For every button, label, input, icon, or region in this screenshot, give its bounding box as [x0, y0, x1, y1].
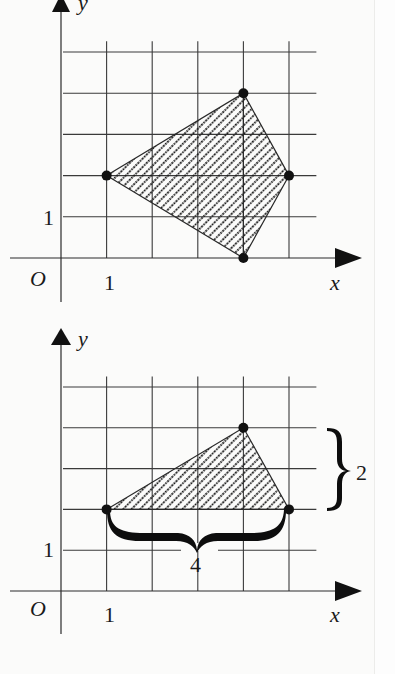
vertex-dot [102, 504, 112, 514]
top-y-axis-label: y [76, 0, 88, 15]
vertex-dot [284, 171, 294, 181]
bottom-origin-label: O [30, 596, 46, 621]
height-brace-icon [327, 428, 351, 511]
bottom-x-axis-arrow-icon [335, 581, 362, 601]
top-y-axis-arrow-icon [52, 0, 70, 12]
top-y-tick-label: 1 [43, 205, 54, 230]
top-x-axis-arrow-icon [335, 248, 362, 268]
height-length-label: 2 [356, 460, 367, 485]
top-figure: y x O 1 1 [10, 0, 362, 302]
top-x-tick-label: 1 [104, 270, 115, 295]
vertex-dot [238, 88, 248, 98]
bottom-y-axis-arrow-icon [51, 328, 71, 345]
base-length-label: 4 [190, 552, 201, 577]
bottom-y-tick-label: 1 [43, 537, 54, 562]
vertex-dot [284, 504, 294, 514]
bottom-y-axis-label: y [76, 326, 88, 351]
bottom-x-axis-label: x [329, 602, 340, 627]
vertex-dot [238, 253, 248, 263]
top-x-axis-label: x [329, 270, 340, 295]
vertex-dot [102, 171, 112, 181]
bottom-figure: y x O 1 1 4 2 [10, 326, 367, 634]
top-origin-label: O [30, 266, 46, 291]
vertex-dot [238, 423, 248, 433]
coordinate-figures: y x O 1 1 y x O 1 1 4 2 [0, 0, 395, 674]
bottom-x-tick-label: 1 [104, 602, 115, 627]
